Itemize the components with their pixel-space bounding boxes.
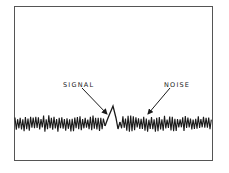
- noise-waveform: [15, 115, 105, 131]
- noise-waveform-right: [120, 116, 211, 132]
- noise-arrow: [148, 88, 170, 114]
- signal-arrow: [82, 88, 107, 114]
- waveform-diagram: [0, 0, 229, 173]
- signal-spike: [105, 106, 120, 129]
